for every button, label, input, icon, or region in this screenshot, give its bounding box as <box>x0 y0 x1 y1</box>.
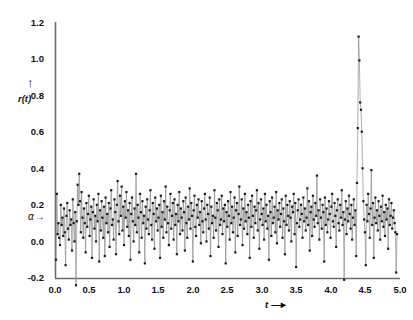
data-point <box>119 195 121 197</box>
data-point <box>70 218 72 220</box>
data-point <box>199 211 201 213</box>
data-point <box>84 222 86 224</box>
data-point <box>173 198 175 200</box>
data-point <box>293 193 295 195</box>
data-point <box>339 204 341 206</box>
data-point <box>116 204 118 206</box>
data-point <box>176 253 178 255</box>
data-point <box>347 220 349 222</box>
data-point <box>207 213 209 215</box>
data-point <box>170 228 172 230</box>
data-point <box>165 185 167 187</box>
data-point <box>189 228 191 230</box>
data-point <box>69 224 71 226</box>
y-tick-label-4: 0.6 <box>14 126 44 137</box>
data-point <box>257 202 259 204</box>
data-point <box>334 215 336 217</box>
data-point <box>323 260 325 262</box>
data-point <box>251 195 253 197</box>
data-point <box>101 217 103 219</box>
data-point <box>126 226 128 228</box>
data-point <box>113 239 115 241</box>
data-point <box>294 202 296 204</box>
data-point <box>260 198 262 200</box>
x-tick-label-5: 2.0 <box>179 284 207 295</box>
data-point <box>162 237 164 239</box>
data-point <box>319 198 321 200</box>
data-point <box>289 200 291 202</box>
data-point <box>77 184 79 186</box>
data-point <box>221 233 223 235</box>
data-point <box>196 204 198 206</box>
data-point <box>98 260 100 262</box>
data-point <box>392 217 394 219</box>
data-point <box>326 231 328 233</box>
data-point <box>351 239 353 241</box>
data-point <box>145 206 147 208</box>
data-point <box>140 211 142 213</box>
data-point <box>373 217 375 219</box>
data-point <box>264 193 266 195</box>
data-point <box>193 209 195 211</box>
data-point <box>205 218 207 220</box>
data-point <box>283 220 285 222</box>
data-point <box>171 215 173 217</box>
data-point <box>262 207 264 209</box>
data-point <box>143 215 145 217</box>
y-tick-label-1: 1.2 <box>14 17 44 28</box>
data-point <box>58 237 60 239</box>
data-point <box>365 204 367 206</box>
data-point <box>211 222 213 224</box>
data-point <box>102 237 104 239</box>
data-point <box>291 206 293 208</box>
data-point <box>80 231 82 233</box>
data-point <box>179 233 181 235</box>
data-point <box>185 222 187 224</box>
data-point <box>324 196 326 198</box>
data-markers <box>55 36 398 287</box>
data-point <box>242 207 244 209</box>
data-point <box>190 202 192 204</box>
data-point <box>82 237 84 239</box>
data-point <box>88 195 90 197</box>
data-point <box>369 237 371 239</box>
data-point <box>265 220 267 222</box>
data-point <box>169 193 171 195</box>
data-point <box>244 193 246 195</box>
data-point <box>237 213 239 215</box>
data-point <box>188 218 190 220</box>
data-point <box>121 229 123 231</box>
data-point <box>157 229 159 231</box>
data-point <box>367 193 369 195</box>
data-point <box>195 235 197 237</box>
data-point <box>154 196 156 198</box>
data-point <box>85 251 87 253</box>
data-point <box>160 195 162 197</box>
data-point <box>182 200 184 202</box>
data-point <box>59 244 61 246</box>
data-point <box>197 198 199 200</box>
data-point <box>142 222 144 224</box>
data-point <box>177 220 179 222</box>
data-point <box>253 237 255 239</box>
data-point <box>340 217 342 219</box>
data-point <box>86 226 88 228</box>
data-point <box>157 217 159 219</box>
data-point <box>346 207 348 209</box>
data-point <box>226 226 228 228</box>
data-point <box>252 215 254 217</box>
data-point <box>158 204 160 206</box>
data-point <box>247 204 249 206</box>
data-point <box>257 229 259 231</box>
data-point <box>144 262 146 264</box>
data-point <box>91 257 93 259</box>
data-point <box>79 200 81 202</box>
data-point <box>205 240 207 242</box>
data-point <box>122 206 124 208</box>
data-point <box>328 200 330 202</box>
data-point <box>271 196 273 198</box>
data-point <box>64 231 66 233</box>
data-point <box>293 233 295 235</box>
data-point <box>278 202 280 204</box>
data-point <box>99 209 101 211</box>
